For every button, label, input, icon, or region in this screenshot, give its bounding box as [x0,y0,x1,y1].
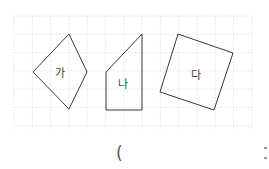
shape-label-ga: 가 [55,67,65,80]
shape-label-na: 나 [118,78,128,91]
shapes-group: 가 나 다 [33,34,233,110]
figure-canvas: 가 나 다 [0,0,269,169]
shape-label-da: 다 [191,69,201,82]
edge-mark-bottom [264,157,267,159]
edge-mark-top [264,147,267,149]
answer-open-paren: ( [116,143,123,163]
grid-lines [14,16,252,129]
